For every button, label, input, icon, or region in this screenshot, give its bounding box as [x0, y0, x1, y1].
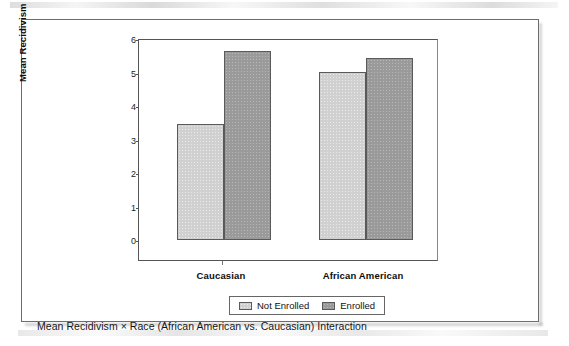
y-tick-label-4: 4	[122, 103, 136, 112]
y-tick-mark-5	[136, 74, 139, 75]
y-tick-mark-1	[136, 208, 139, 209]
legend-label-not-enrolled: Not Enrolled	[257, 300, 309, 311]
scan-artifact-top	[10, 2, 558, 8]
bar-african-american-not-enrolled	[319, 72, 366, 240]
y-tick-mark-2	[136, 174, 139, 175]
figure-frame: Mean Recidivism 6 5 4 3 2 1 0 Caucas	[21, 19, 539, 322]
legend-swatch-enrolled	[322, 302, 335, 310]
legend-swatch-not-enrolled	[239, 302, 252, 310]
scan-artifact-bottom	[18, 330, 548, 336]
plot-area: 6 5 4 3 2 1 0	[138, 39, 438, 261]
chart-container: Mean Recidivism 6 5 4 3 2 1 0 Caucas	[22, 20, 540, 323]
x-axis-label-caucasian: Caucasian	[161, 270, 281, 281]
chart-legend: Not Enrolled Enrolled	[229, 296, 385, 315]
y-tick-mark-3	[136, 141, 139, 142]
y-tick-label-2: 2	[122, 170, 136, 179]
y-tick-label-5: 5	[122, 70, 136, 79]
legend-item-not-enrolled: Not Enrolled	[239, 300, 309, 311]
y-tick-label-1: 1	[122, 204, 136, 213]
legend-label-enrolled: Enrolled	[340, 300, 375, 311]
y-tick-label-0: 0	[122, 237, 136, 246]
x-tick-mark-caucasian	[222, 261, 223, 265]
x-axis-label-african-american: African American	[293, 270, 433, 281]
y-tick-label-6: 6	[122, 36, 136, 45]
y-tick-mark-4	[136, 107, 139, 108]
y-tick-mark-0	[136, 241, 139, 242]
bar-caucasian-enrolled	[224, 51, 271, 240]
bar-caucasian-not-enrolled	[177, 124, 224, 240]
bar-african-american-enrolled	[366, 58, 413, 240]
legend-item-enrolled: Enrolled	[322, 300, 375, 311]
y-tick-label-3: 3	[122, 137, 136, 146]
y-tick-mark-6	[136, 40, 139, 41]
y-axis-title: Mean Recidivism	[17, 3, 28, 82]
